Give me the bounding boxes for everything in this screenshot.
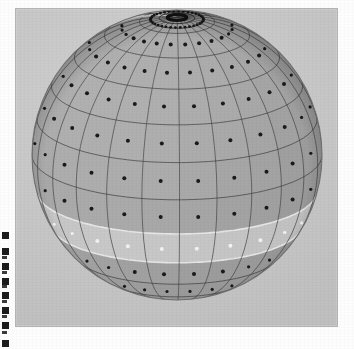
scan-edge-mark-thin — [2, 315, 7, 318]
scan-edge-mark-thin — [2, 331, 7, 334]
scan-edge-mark — [2, 340, 9, 347]
scan-edge-mark — [2, 278, 9, 285]
scan-edge-mark-thin — [2, 256, 7, 259]
scan-edge-mark-thin — [2, 271, 7, 274]
limb-shading — [16, 9, 337, 326]
figure-plate — [15, 8, 338, 327]
page-canvas — [0, 0, 354, 349]
globe-svg — [16, 9, 337, 326]
scan-edge-mark-thin — [2, 285, 7, 288]
scan-edge-mark — [2, 292, 9, 299]
scan-edge-mark — [2, 248, 9, 255]
scan-edge-mark — [2, 307, 9, 314]
scan-edge-mark — [2, 232, 9, 239]
scan-edge-mark-thin — [2, 300, 7, 303]
scan-edge-mark — [2, 322, 9, 329]
globe-figure — [16, 9, 337, 326]
scan-edge-mark — [2, 263, 9, 270]
